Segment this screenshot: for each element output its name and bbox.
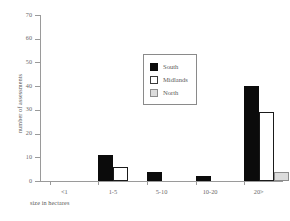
legend-label: North bbox=[163, 89, 178, 96]
y-tick: 60 bbox=[35, 39, 41, 40]
x-tick-label: 10-20 bbox=[203, 188, 218, 195]
y-tick-label: 0 bbox=[29, 177, 32, 184]
legend-item-south[interactable]: South bbox=[150, 60, 188, 73]
x-tick-label: <1 bbox=[61, 188, 68, 195]
bar-south-20> bbox=[244, 86, 259, 181]
x-tick bbox=[50, 181, 51, 185]
chart-figure: number of assessments size in hectares 0… bbox=[0, 0, 290, 221]
y-tick: 50 bbox=[35, 62, 41, 63]
x-axis-line bbox=[40, 181, 283, 182]
y-tick-label: 50 bbox=[26, 58, 32, 65]
y-tick: 0 bbox=[35, 181, 41, 182]
bar-south-1-5 bbox=[98, 155, 113, 181]
legend-swatch-icon bbox=[150, 76, 158, 84]
y-tick-label: 40 bbox=[26, 82, 32, 89]
x-tick-label: 20> bbox=[254, 188, 264, 195]
y-tick-label: 70 bbox=[26, 11, 32, 18]
y-tick-label: 10 bbox=[26, 153, 32, 160]
x-tick bbox=[196, 181, 197, 185]
legend-item-north[interactable]: North bbox=[150, 86, 188, 99]
x-tick bbox=[244, 181, 245, 185]
x-tick bbox=[98, 181, 99, 185]
legend-item-midlands[interactable]: Midlands bbox=[150, 73, 188, 86]
y-tick: 20 bbox=[35, 134, 41, 135]
y-tick-label: 60 bbox=[26, 34, 32, 41]
legend-label: South bbox=[163, 63, 178, 70]
bar-midlands-20> bbox=[259, 112, 274, 181]
legend-swatch-icon bbox=[150, 89, 158, 97]
x-axis-title: size in hectares bbox=[30, 199, 69, 206]
legend-swatch-icon bbox=[150, 63, 158, 71]
legend-label: Midlands bbox=[163, 76, 188, 83]
x-tick-label: 1-5 bbox=[109, 188, 118, 195]
bar-south-10-20 bbox=[196, 176, 211, 181]
y-tick: 40 bbox=[35, 86, 41, 87]
y-tick: 70 bbox=[35, 15, 41, 16]
y-tick: 10 bbox=[35, 157, 41, 158]
y-tick-label: 20 bbox=[26, 129, 32, 136]
y-axis-title: number of assessments bbox=[16, 49, 23, 159]
bar-midlands-1-5 bbox=[113, 167, 128, 181]
x-tick-label: 5-10 bbox=[156, 188, 168, 195]
bar-north-20> bbox=[274, 172, 289, 181]
y-tick: 30 bbox=[35, 110, 41, 111]
x-tick bbox=[147, 181, 148, 185]
chart-legend: SouthMidlandsNorth bbox=[143, 54, 197, 105]
y-tick-label: 30 bbox=[26, 105, 32, 112]
bar-south-5-10 bbox=[147, 172, 162, 181]
